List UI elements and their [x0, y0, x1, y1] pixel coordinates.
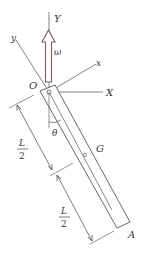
svg-text:2: 2 — [61, 219, 67, 229]
extension-line-top — [9, 95, 34, 108]
label-Y: Y — [54, 13, 62, 24]
label-G: G — [96, 143, 104, 154]
svg-text:2: 2 — [19, 151, 25, 161]
fraction-L-over-2-bottom: L 2 — [59, 206, 70, 229]
label-x: x — [96, 58, 101, 68]
fraction-L-over-2-top: L 2 — [17, 138, 28, 161]
label-theta: θ — [52, 128, 58, 138]
extension-line-mid — [50, 163, 73, 176]
label-A: A — [127, 229, 135, 240]
label-y: y — [10, 33, 17, 43]
label-omega: ω — [54, 47, 62, 57]
svg-text:L: L — [18, 138, 25, 148]
label-O: O — [29, 80, 37, 91]
svg-text:L: L — [60, 206, 67, 216]
rotating-rod-diagram: Y y ω x O X θ G A L 2 L 2 — [0, 0, 142, 253]
extension-line-bottom — [90, 231, 114, 244]
center-of-mass-G — [83, 153, 86, 156]
label-X: X — [105, 87, 114, 98]
diagram-svg: Y y ω x O X θ G A L 2 L 2 — [0, 0, 142, 253]
